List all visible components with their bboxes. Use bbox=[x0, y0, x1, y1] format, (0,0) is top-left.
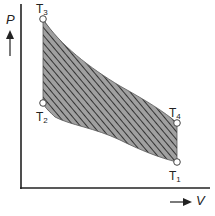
pv-diagram: P V T3 T2 T4 T1 bbox=[0, 0, 215, 216]
label-t4: T4 bbox=[169, 107, 181, 123]
label-t2: T2 bbox=[36, 111, 48, 127]
diagram-graphic bbox=[0, 0, 215, 216]
point-t1 bbox=[174, 159, 181, 166]
y-axis-label: P bbox=[6, 14, 15, 26]
x-axis-label: V bbox=[196, 195, 205, 207]
p-arrow-icon bbox=[6, 30, 14, 56]
point-t2 bbox=[40, 100, 47, 107]
label-t1: T1 bbox=[169, 170, 181, 186]
label-t3: T3 bbox=[36, 3, 48, 19]
cycle-area bbox=[43, 19, 177, 162]
v-arrow-icon bbox=[170, 198, 192, 206]
